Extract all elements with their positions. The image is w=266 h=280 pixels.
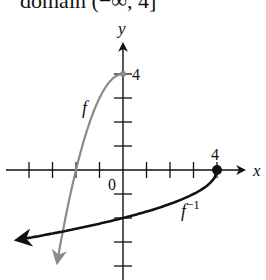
function-plot: y x 0 4 4 f f−1 [0,0,266,280]
curve-f-label: f [82,98,90,118]
x-tick-label-4: 4 [211,146,219,163]
endpoint-dot-f [120,71,126,77]
x-axis-label: x [252,161,261,180]
origin-label: 0 [108,176,116,193]
curve-f [57,74,123,262]
endpoint-dot-f-inverse [212,165,222,175]
y-axis-label: y [116,19,126,38]
curve-f-inverse-label: f−1 [181,197,200,221]
y-tick-label-4: 4 [132,66,140,83]
axes [6,44,244,280]
